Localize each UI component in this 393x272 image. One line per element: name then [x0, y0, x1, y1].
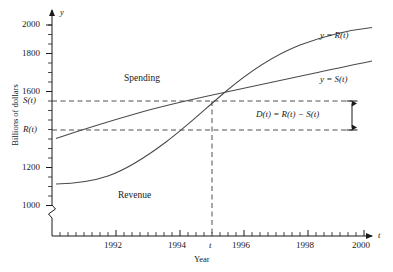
curve-label-lower: y = S(t): [320, 74, 348, 84]
x-minor-ticks: [60, 232, 356, 236]
chart-figure: 2000 1800 1600 1200 1000 S(t) R(t) 1992 …: [0, 0, 393, 272]
y-axis-break-icon: [49, 16, 56, 218]
y-tick-label-2000: 2000: [22, 19, 40, 29]
reference-lines: [52, 101, 352, 236]
x-tick-label-1992: 1992: [104, 240, 122, 250]
y-tick-label-s-of-t: S(t): [23, 95, 36, 105]
x-tick-label-1994: 1994: [168, 240, 186, 250]
y-minor-ticks: [48, 25, 52, 206]
difference-bracket: [347, 101, 358, 130]
curve-label-upper: y = R(t): [320, 30, 349, 40]
y-axis-title: Billions of dollars: [10, 73, 20, 157]
difference-equation-label: D(t) = R(t) − S(t): [256, 109, 319, 119]
x-major-ticks: [116, 230, 364, 236]
chart-canvas: [0, 0, 393, 272]
curve-spending: [56, 61, 372, 139]
spending-region-label: Spending: [124, 73, 160, 83]
y-tick-label-1200: 1200: [22, 162, 40, 172]
y-major-ticks: [46, 25, 52, 206]
x-tick-label-1996: 1996: [232, 240, 250, 250]
y-tick-label-1000: 1000: [22, 200, 40, 210]
x-axis-title: Year: [194, 254, 210, 264]
x-tick-label-1998: 1998: [296, 240, 314, 250]
curve-revenue: [56, 28, 372, 185]
y-axis-symbol: y: [60, 7, 64, 17]
x-tick-label-2000: 2000: [352, 240, 370, 250]
revenue-region-label: Revenue: [118, 190, 151, 200]
y-tick-label-1800: 1800: [22, 48, 40, 58]
y-tick-label-r-of-t: R(t): [23, 124, 37, 134]
y-tick-label-1600: 1600: [22, 86, 40, 96]
x-axis-symbol: t: [378, 230, 380, 240]
x-tick-label-t: t: [209, 240, 212, 250]
